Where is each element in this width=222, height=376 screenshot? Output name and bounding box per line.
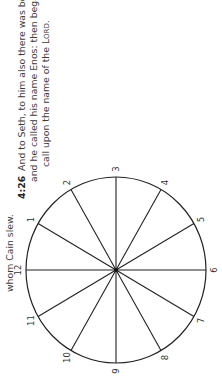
- spoke-4: [116, 190, 161, 271]
- spoke-label-8: 8: [160, 355, 170, 360]
- spoke-1: [38, 224, 116, 271]
- spoke-label-11: 11: [26, 315, 36, 326]
- spoke-8: [116, 270, 161, 351]
- spoke-label-2: 2: [62, 180, 72, 185]
- spoke-label-7: 7: [196, 318, 206, 323]
- clock-circle-diagram: 123456789101112: [0, 0, 222, 376]
- spoke-label-6: 6: [209, 267, 219, 272]
- spoke-5: [116, 224, 194, 271]
- spoke-label-12: 12: [13, 265, 23, 276]
- spoke-label-3: 3: [111, 166, 121, 171]
- spoke-label-9: 9: [111, 368, 121, 373]
- center-dot: [114, 268, 118, 272]
- spoke-label-10: 10: [62, 352, 72, 363]
- spoke-10: [71, 270, 116, 351]
- spoke-11: [38, 270, 116, 317]
- spoke-label-4: 4: [160, 180, 170, 185]
- spoke-label-5: 5: [196, 217, 206, 222]
- spoke-label-1: 1: [26, 217, 36, 222]
- spoke-7: [116, 270, 194, 317]
- spoke-2: [71, 190, 116, 271]
